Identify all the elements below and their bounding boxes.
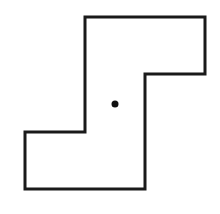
- center-dot: [112, 101, 119, 108]
- diagram-canvas: [0, 0, 220, 214]
